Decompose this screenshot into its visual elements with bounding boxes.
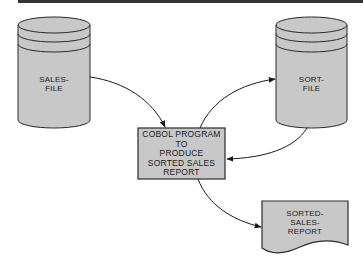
report-label-line: SORTED- (262, 209, 348, 218)
program-label-line: REPORT (138, 168, 225, 178)
sales-file-label-line1: SALES- (18, 75, 90, 84)
report-label-line: REPORT (262, 227, 348, 236)
sales-file-label-line2: FILE (18, 84, 90, 93)
arrow-program-to-sort (200, 79, 275, 128)
sort-file-label-line2: FILE (276, 84, 347, 93)
program-label: COBOL PROGRAM TO PRODUCE SORTED SALES RE… (138, 130, 225, 178)
top-rule (18, 0, 363, 3)
arrow-sort-to-program (227, 128, 307, 159)
sort-file-label-line1: SORT- (276, 75, 347, 84)
report-label: SORTED- SALES- REPORT (262, 209, 348, 236)
sort-file-cylinder (276, 17, 347, 128)
report-label-line: SALES- (262, 218, 348, 227)
arrow-program-to-report (198, 179, 261, 227)
sort-file-label: SORT- FILE (276, 75, 347, 93)
arrow-sales-to-program (90, 77, 165, 127)
sales-file-label: SALES- FILE (18, 75, 90, 93)
sales-file-cylinder (18, 17, 90, 128)
